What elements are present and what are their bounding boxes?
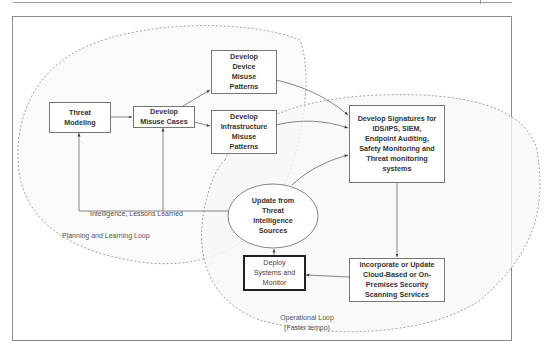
device-patterns-label: Develop Device Misuse Patterns [230, 52, 259, 92]
signatures-node: Develop Signatures for IDS/IPS, SIEM, En… [349, 105, 445, 183]
device-patterns-node: Develop Device Misuse Patterns [211, 50, 277, 94]
infra-patterns-node: Develop Infrastructure Misuse Patterns [211, 110, 277, 154]
threat-modeling-node: Threat Modeling [49, 102, 111, 133]
incorporate-label: Incorporate or Update Cloud-Based or On-… [359, 260, 434, 300]
misuse-cases-node: Develop Misuse Cases [133, 106, 195, 128]
threat-modeling-label: Threat Modeling [64, 108, 96, 128]
deploy-node: Deploy Systems and Monitor [243, 255, 306, 291]
threat-intel-label: Update from Threat Intelligence Sources [252, 196, 294, 236]
misuse-cases-label: Develop Misuse Cases [140, 107, 188, 127]
incorporate-node: Incorporate or Update Cloud-Based or On-… [349, 258, 445, 302]
planning-loop-text: Planning and Learning Loop [62, 232, 150, 239]
infra-patterns-label: Develop Infrastructure Misuse Patterns [221, 112, 268, 152]
planning-loop-label: Planning and Learning Loop [62, 232, 150, 239]
feedback-label-text: Intelligence, Lessons Learned [90, 210, 183, 217]
signatures-label: Develop Signatures for IDS/IPS, SIEM, En… [358, 114, 437, 174]
operational-loop-label: Operational Loop (Faster tempo) [262, 313, 352, 333]
feedback-edge-label: Intelligence, Lessons Learned [90, 210, 183, 217]
threat-intel-node: Update from Threat Intelligence Sources [228, 184, 318, 248]
deploy-label: Deploy Systems and Monitor [254, 258, 296, 288]
operational-loop-text: Operational Loop (Faster tempo) [280, 314, 334, 331]
